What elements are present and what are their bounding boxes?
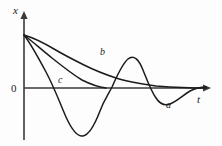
damping-curves-figure: x t 0 a b c bbox=[0, 0, 222, 146]
curve-a-underdamped bbox=[24, 35, 206, 136]
origin-tick-label: 0 bbox=[11, 82, 17, 94]
curve-label-b: b bbox=[100, 46, 105, 57]
x-axis-label: t bbox=[197, 93, 201, 105]
curve-label-c: c bbox=[58, 74, 63, 85]
y-axis-label: x bbox=[12, 4, 18, 16]
curve-label-a: a bbox=[166, 99, 171, 110]
damping-plot-svg: x t 0 a b c bbox=[0, 0, 222, 146]
y-axis-arrowhead bbox=[20, 11, 27, 19]
curve-c-critical bbox=[24, 35, 106, 88]
